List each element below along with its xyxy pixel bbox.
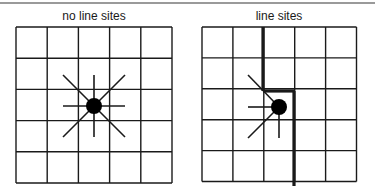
center-site-dot: [271, 99, 287, 115]
diagram-canvas: [0, 0, 375, 194]
center-site-dot: [86, 98, 102, 114]
